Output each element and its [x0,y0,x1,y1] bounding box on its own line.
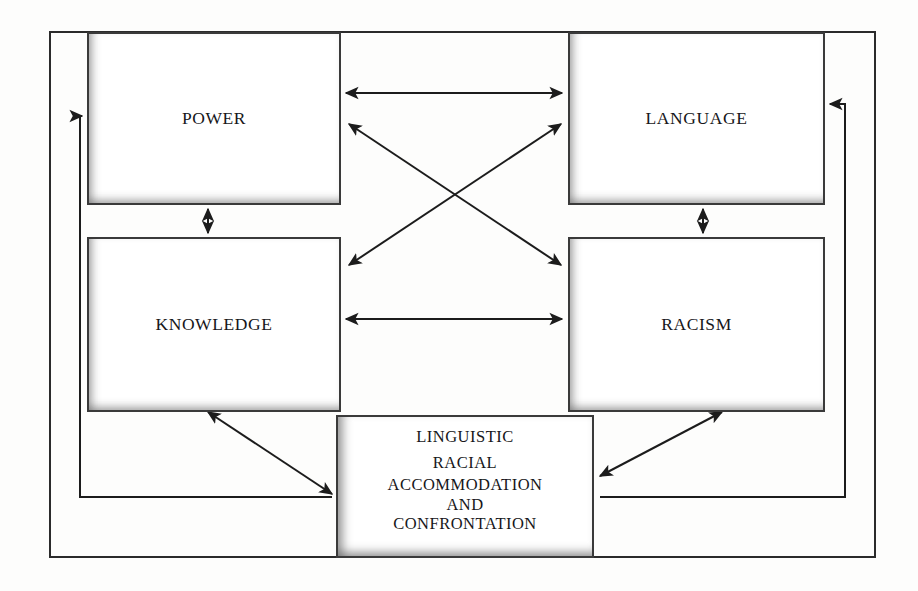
node-racism-label: RACISM [661,314,732,335]
node-knowledge-label: KNOWLEDGE [155,314,272,335]
node-language[interactable]: LANGUAGE [568,32,825,205]
node-knowledge[interactable]: KNOWLEDGE [87,237,341,412]
outcome-line-2: RACIAL [433,450,497,476]
node-racism[interactable]: RACISM [568,237,825,412]
diagram-canvas: POWER LANGUAGE KNOWLEDGE RACISM LINGUIST… [0,0,918,591]
outcome-line-5: CONFRONTATION [393,514,537,533]
node-power-label: POWER [182,108,246,129]
outcome-line-3: ACCOMMODATION [387,475,542,494]
node-linguistic-racial-accommodation-confrontation[interactable]: LINGUISTIC RACIAL ACCOMMODATION AND CONF… [336,415,594,558]
node-power[interactable]: POWER [87,32,341,205]
node-language-label: LANGUAGE [645,108,747,129]
outcome-line-1: LINGUISTIC [416,424,514,450]
outcome-line-4: AND [446,495,483,514]
